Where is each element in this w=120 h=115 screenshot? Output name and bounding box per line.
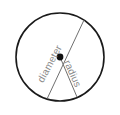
geometry-canvas	[0, 0, 120, 115]
circle-diagram: diameter radius	[0, 0, 120, 115]
